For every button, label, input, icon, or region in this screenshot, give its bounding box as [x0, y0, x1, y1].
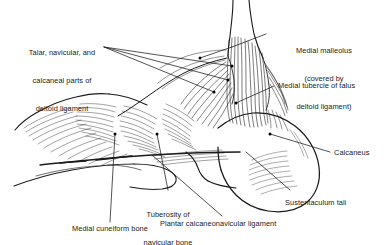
leader-dot-calcaneus	[269, 133, 272, 136]
talus-anterior-hatching	[162, 104, 196, 150]
leader-dot-deltoid-2	[227, 79, 230, 82]
leader-dot-medial-tubercle	[235, 102, 238, 105]
label-medial-malleolus: Medial malleolus (covered by deltoid lig…	[268, 28, 380, 129]
label-medial-malleolus-line1: Medial malleolus	[268, 46, 380, 55]
label-deltoid-parts: Talar, navicular, and calcaneal parts of…	[8, 30, 116, 131]
sustentaculum-tali-shelf	[186, 152, 236, 188]
label-medial-cuneiform: Medial cuneiform bone	[56, 224, 164, 233]
navicular-region-hatching	[120, 106, 165, 157]
label-deltoid-parts-line3: deltoid ligament	[8, 104, 116, 113]
leader-dots	[114, 57, 272, 136]
leader-dot-medial-malleolus	[199, 57, 202, 60]
plantar-edge-dark-2	[40, 161, 86, 165]
leader-calcaneus	[270, 134, 330, 152]
leader-medial-malleolus	[232, 34, 266, 47]
leader-medial-malleolus-2	[200, 47, 232, 58]
leader-deltoid-parts-2	[104, 47, 228, 80]
leader-sustentaculum-tali	[246, 152, 290, 190]
label-deltoid-parts-line2: calcaneal parts of	[8, 76, 116, 85]
leader-deltoid-parts-1	[104, 47, 232, 66]
anatomical-figure: Talar, navicular, and calcaneal parts of…	[0, 0, 384, 245]
leader-dot-tuberosity	[156, 133, 159, 136]
label-medial-malleolus-line3: deltoid ligament)	[268, 102, 380, 111]
leader-dot-deltoid-1	[231, 65, 234, 68]
label-sustentaculum-tali: Sustentaculum tali	[285, 198, 383, 207]
deltoid-ligament-fibers-fan	[181, 62, 233, 128]
leader-dot-deltoid-3	[213, 91, 216, 94]
label-tuberosity-navicular: Tuberosity of navicular bone	[132, 192, 204, 245]
label-calcaneus: Calcaneus	[334, 148, 384, 157]
label-tuberosity-navicular-line1: Tuberosity of	[132, 210, 204, 219]
leader-deltoid-parts-3	[104, 47, 214, 92]
label-medial-tubercle: Medial tubercle of talus	[278, 81, 384, 90]
label-tuberosity-navicular-line2: navicular bone	[132, 238, 204, 245]
forefoot-lower-outline	[14, 164, 176, 189]
label-deltoid-parts-line1: Talar, navicular, and	[8, 48, 116, 57]
leader-dot-cuneiform	[114, 133, 117, 136]
